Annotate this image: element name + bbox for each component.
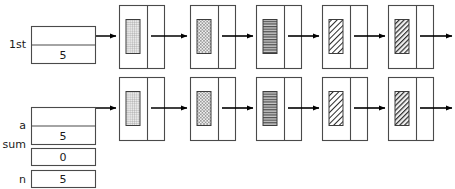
node-data-swatch-fine-grid xyxy=(126,92,140,126)
linked-list-diagram: 51st5a0sum5n xyxy=(0,0,455,189)
variable-label: n xyxy=(19,173,26,186)
node-data-swatch-checkerboard xyxy=(197,20,211,54)
node-data-swatch-diagonal-thin xyxy=(329,20,343,54)
node-data-swatch-diagonal-thick xyxy=(395,20,409,54)
node-data-swatch-horizontal-lines xyxy=(263,20,277,54)
variable-value: 5 xyxy=(60,173,67,186)
variable-label: a xyxy=(19,119,26,132)
variable-value: 5 xyxy=(60,49,67,62)
variable-label: 1st xyxy=(9,38,27,51)
variable-label: sum xyxy=(3,138,26,151)
variable-value: 0 xyxy=(60,151,67,164)
node-data-swatch-horizontal-lines xyxy=(263,92,277,126)
diagram-canvas: 51st5a0sum5n xyxy=(0,0,455,189)
node-data-swatch-fine-grid xyxy=(126,20,140,54)
node-data-swatch-diagonal-thin xyxy=(329,92,343,126)
node-data-swatch-diagonal-thick xyxy=(395,92,409,126)
node-data-swatch-checkerboard xyxy=(197,92,211,126)
variable-value: 5 xyxy=(60,130,67,143)
